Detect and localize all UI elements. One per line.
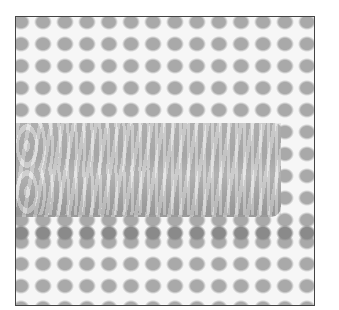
stitch-row-upper — [16, 123, 281, 169]
mesh-dark-row — [16, 222, 314, 244]
stitch-row-lower — [16, 169, 281, 215]
photo-frame — [15, 16, 315, 306]
stitched-band — [16, 123, 281, 217]
